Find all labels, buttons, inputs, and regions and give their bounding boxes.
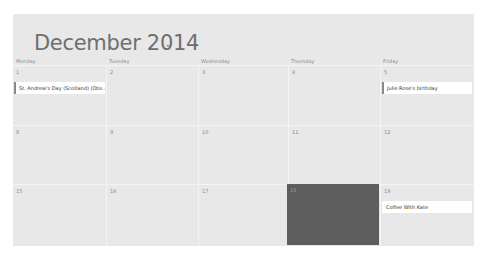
day-cell[interactable]: 3 [198, 66, 288, 125]
day-cell[interactable]: 2 [106, 66, 198, 125]
day-number: 5 [384, 69, 387, 75]
weekday-header-tuesday: Tuesday [109, 58, 129, 64]
day-number: 10 [202, 129, 208, 135]
day-number: 8 [16, 129, 19, 135]
day-cell[interactable]: 4 [288, 66, 380, 125]
weekday-header-thursday: Thursday [291, 58, 314, 64]
day-number: 3 [202, 69, 205, 75]
day-number: 12 [384, 129, 390, 135]
day-cell[interactable]: 19 Coffee With Kate [380, 185, 474, 246]
day-cell[interactable]: 16 [106, 185, 198, 246]
day-number: 18 [290, 187, 296, 193]
event-chip[interactable]: St. Andrew's Day (Scotland) (Obs... [14, 82, 105, 94]
day-cell[interactable]: 12 [380, 126, 474, 184]
day-cell[interactable]: 15 [13, 185, 106, 246]
weekday-header-wednesday: Wednesday [201, 58, 230, 64]
month-title[interactable]: December 2014 [34, 31, 199, 55]
event-chip[interactable]: Julie Rose's birthday [382, 82, 472, 94]
day-number: 4 [292, 69, 295, 75]
event-chip[interactable]: Coffee With Kate [382, 201, 472, 213]
day-number: 15 [16, 188, 22, 194]
day-cell[interactable]: 8 [13, 126, 106, 184]
day-cell[interactable]: 11 [288, 126, 380, 184]
day-number: 2 [110, 69, 113, 75]
day-cell[interactable]: 17 [198, 185, 288, 246]
day-number: 1 [16, 69, 19, 75]
day-cell[interactable]: 10 [198, 126, 288, 184]
day-cell-today[interactable]: 18 [287, 184, 379, 245]
chevron-down-icon[interactable]: ⌄ [164, 38, 172, 49]
calendar-month-view: December 2014 ⌄ Monday Tuesday Wednesday… [13, 14, 474, 246]
day-number: 16 [110, 188, 116, 194]
day-number: 19 [384, 188, 390, 194]
day-cell[interactable]: 5 Julie Rose's birthday [380, 66, 474, 125]
day-number: 9 [110, 129, 113, 135]
day-cell[interactable]: 1 St. Andrew's Day (Scotland) (Obs... [13, 66, 106, 125]
weekday-header-monday: Monday [16, 58, 36, 64]
weekday-header-friday: Friday [383, 58, 398, 64]
day-number: 11 [292, 129, 298, 135]
day-cell[interactable]: 9 [106, 126, 198, 184]
day-number: 17 [202, 188, 208, 194]
